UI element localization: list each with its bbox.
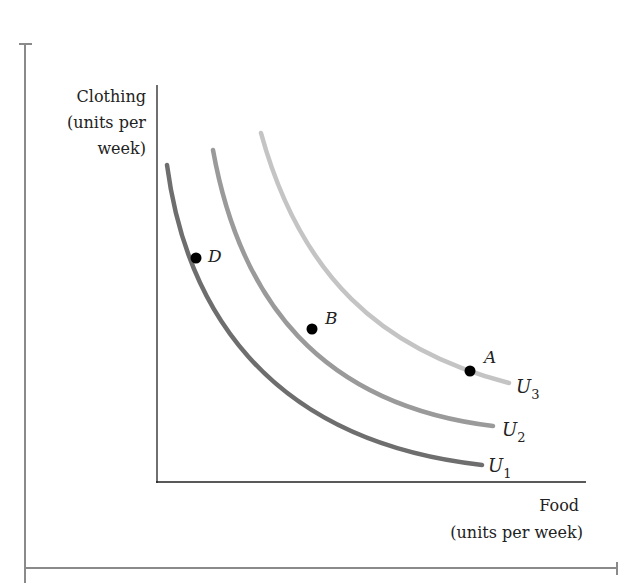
point-a-label: A: [482, 347, 496, 367]
x-axis-label-line2: (units per week): [450, 523, 583, 542]
point-b-label: B: [324, 308, 338, 328]
point-d: [191, 253, 202, 264]
y-axis-label-line1: Clothing: [77, 87, 146, 106]
point-d-label: D: [207, 246, 222, 266]
y-axis-label-line3: week): [97, 139, 146, 158]
curve-u3-label: U3: [516, 376, 539, 402]
curve-u2: [213, 150, 493, 426]
curve-u1-label-main: U: [488, 455, 504, 476]
indifference-map-diagram: D B A U3 U2 U1 Clothing (units per week)…: [0, 0, 627, 583]
point-b: [307, 324, 318, 335]
curve-u1-label: U1: [488, 455, 511, 481]
curve-u3-label-sub: 3: [531, 387, 539, 402]
curve-u3: [261, 133, 509, 383]
point-a: [465, 366, 476, 377]
curve-u3-label-main: U: [516, 376, 532, 397]
x-axis-label-line1: Food: [539, 496, 579, 515]
curve-u2-label-main: U: [502, 419, 518, 440]
y-axis-label-line2: (units per: [67, 113, 146, 132]
curve-u2-label: U2: [502, 419, 525, 445]
curve-u2-label-sub: 2: [517, 430, 525, 445]
curve-u1-label-sub: 1: [503, 466, 511, 481]
